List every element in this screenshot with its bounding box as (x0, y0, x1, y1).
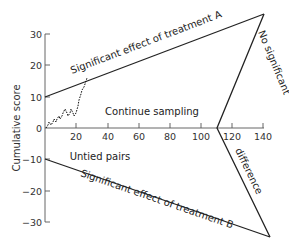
x-tick-100: 100 (192, 131, 210, 142)
x-tick-labels: 20 40 60 80 100 120 140 (70, 131, 272, 142)
label-continue-sampling: Continue sampling (105, 106, 199, 117)
cumulative-score-path (46, 78, 87, 128)
x-tick-120: 120 (223, 131, 241, 142)
y-axis-title: Cumulative score (11, 84, 22, 171)
y-tick-neg30: −30 (22, 217, 42, 228)
y-tick-neg20: −20 (22, 186, 42, 197)
label-untied-pairs: Untied pairs (70, 151, 131, 162)
x-tick-60: 60 (133, 131, 145, 142)
boundary-no-difference (217, 14, 270, 237)
y-tick-20: 20 (30, 60, 42, 71)
sequential-analysis-chart: 30 20 10 0 −10 −20 −30 20 40 60 80 100 1… (0, 0, 289, 248)
boundary-treatment-a (45, 14, 264, 97)
y-tick-30: 30 (30, 29, 42, 40)
label-significant-a: Significant effect of treatment A (69, 8, 223, 75)
y-tick-10: 10 (30, 92, 42, 103)
y-tick-0: 0 (36, 123, 42, 134)
label-significant-b: Significant effect of treatment B (79, 167, 235, 230)
x-ticks (76, 123, 263, 128)
y-tick-neg10: −10 (22, 154, 42, 165)
x-tick-20: 20 (70, 131, 82, 142)
label-no-significant: No significant (256, 29, 289, 97)
x-tick-140: 140 (254, 131, 272, 142)
x-tick-80: 80 (164, 131, 176, 142)
y-tick-labels: 30 20 10 0 −10 −20 −30 (22, 29, 42, 228)
x-tick-40: 40 (102, 131, 114, 142)
